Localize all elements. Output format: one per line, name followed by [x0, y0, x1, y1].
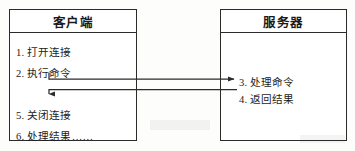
- client-step-6: 6. 处理结果……: [16, 128, 93, 143]
- server-box-body: 3. 处理命令 4. 返回结果: [221, 33, 346, 140]
- server-step-4: 4. 返回结果: [239, 91, 295, 106]
- diagram-canvas: 客户端 1. 打开连接 2. 执行命令 5. 关闭连接 6. 处理结果…… 服务…: [0, 0, 355, 151]
- client-box-header: 客户端: [10, 10, 136, 33]
- client-box: 客户端 1. 打开连接 2. 执行命令 5. 关闭连接 6. 处理结果……: [9, 9, 137, 141]
- server-box-header: 服务器: [221, 10, 346, 33]
- scan-artifact: [150, 120, 210, 130]
- client-step-2: 2. 执行命令: [16, 65, 72, 80]
- client-header-label: 客户端: [53, 12, 94, 31]
- server-header-label: 服务器: [263, 12, 304, 31]
- client-step-5: 5. 关闭连接: [16, 107, 72, 122]
- client-box-body: 1. 打开连接 2. 执行命令 5. 关闭连接 6. 处理结果……: [10, 33, 136, 140]
- client-step-1: 1. 打开连接: [16, 44, 72, 59]
- server-box: 服务器 3. 处理命令 4. 返回结果: [220, 9, 347, 141]
- server-step-3: 3. 处理命令: [239, 74, 295, 89]
